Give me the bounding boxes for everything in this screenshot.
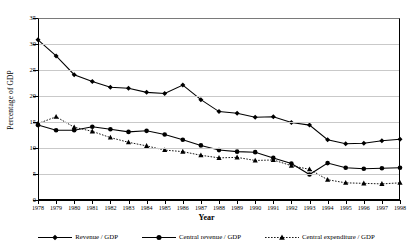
gridline (38, 174, 400, 175)
data-point-marker (90, 79, 95, 84)
x-axis-tick-mark (346, 200, 347, 204)
data-point-marker (343, 141, 348, 146)
y-axis-tick-mark (33, 148, 38, 149)
data-point-marker (398, 165, 403, 170)
x-axis-tick-mark (183, 200, 184, 204)
data-point-marker (126, 130, 131, 135)
data-point-marker (199, 143, 204, 148)
y-axis-tick-mark (33, 200, 38, 201)
data-point-marker (362, 167, 367, 172)
legend-marker-triangle-icon (265, 233, 299, 242)
x-axis-tick-mark (364, 200, 365, 204)
x-axis-title: Year (0, 213, 413, 222)
legend-item-label: Central expenditure / GDP (302, 233, 375, 241)
y-axis-tick-mark (33, 44, 38, 45)
gridline (38, 44, 400, 45)
x-axis-tick-mark (255, 200, 256, 204)
data-point-marker (253, 150, 258, 155)
data-point-marker (126, 139, 131, 144)
x-axis-tick-mark (382, 200, 383, 204)
data-point-marker (325, 177, 330, 182)
legend-marker-circle-icon (142, 233, 176, 242)
data-point-marker (361, 141, 366, 146)
data-point-marker (108, 127, 113, 132)
y-axis-tick-mark (33, 70, 38, 71)
y-axis-tick-mark (33, 174, 38, 175)
gridline (38, 148, 400, 149)
data-point-marker (253, 115, 258, 120)
data-point-marker (90, 129, 95, 134)
data-point-marker (54, 128, 59, 133)
x-axis-tick-mark (110, 200, 111, 204)
series-1 (36, 37, 403, 146)
x-axis-tick-mark (165, 200, 166, 204)
data-point-marker (343, 165, 348, 170)
data-point-marker (379, 138, 384, 143)
y-axis-tick-mark (33, 96, 38, 97)
x-axis-tick-mark (219, 200, 220, 204)
gridline (38, 18, 400, 19)
legend-item[interactable]: Central expenditure / GDP (265, 233, 375, 242)
legend-item[interactable]: Revenue / GDP (38, 233, 118, 242)
gridline (38, 96, 400, 97)
x-axis-tick-mark (291, 200, 292, 204)
data-point-marker (271, 114, 276, 119)
data-point-marker (162, 132, 167, 137)
data-point-marker (144, 129, 149, 134)
x-axis-tick-mark (147, 200, 148, 204)
x-axis-tick-mark (310, 200, 311, 204)
legend-marker-diamond-icon (38, 233, 72, 242)
data-point-marker (126, 86, 131, 91)
gridline (38, 70, 400, 71)
legend-item-label: Central revenue / GDP (179, 233, 241, 241)
plot-area (38, 18, 400, 200)
data-point-marker (398, 137, 403, 142)
gridline (38, 122, 400, 123)
x-axis-tick-mark (38, 200, 39, 204)
data-point-marker (325, 161, 330, 166)
x-axis-tick-mark (237, 200, 238, 204)
data-point-marker (54, 114, 59, 119)
data-point-marker (235, 111, 240, 116)
data-point-marker (397, 180, 402, 185)
x-axis-tick-mark (273, 200, 274, 204)
x-axis-tick-mark (74, 200, 75, 204)
x-axis-tick-mark (56, 200, 57, 204)
data-point-marker (90, 124, 95, 129)
y-axis-tick-mark (33, 122, 38, 123)
x-axis-tick-mark (400, 200, 401, 204)
legend-item[interactable]: Central revenue / GDP (142, 233, 241, 242)
x-axis-tick-label: 1998 (385, 205, 413, 212)
data-point-marker (307, 167, 312, 172)
data-point-marker (235, 149, 240, 154)
data-point-marker (144, 90, 149, 95)
x-axis-tick-mark (129, 200, 130, 204)
x-axis-tick-mark (328, 200, 329, 204)
x-axis-tick-mark (92, 200, 93, 204)
data-point-marker (72, 124, 77, 129)
chart-legend: Revenue / GDPCentral revenue / GDPCentra… (0, 230, 413, 244)
y-axis-tick-mark (33, 18, 38, 19)
x-axis-tick-mark (201, 200, 202, 204)
data-point-marker (180, 149, 185, 154)
data-point-marker (108, 85, 113, 90)
legend-item-label: Revenue / GDP (75, 233, 118, 241)
data-point-marker (380, 166, 385, 171)
chart-container: 05101520253035 Percentage of GDP 1978197… (0, 0, 413, 247)
series-layer (38, 18, 400, 200)
y-axis-title: Percentage of GDP (6, 0, 20, 200)
data-point-marker (181, 137, 186, 142)
